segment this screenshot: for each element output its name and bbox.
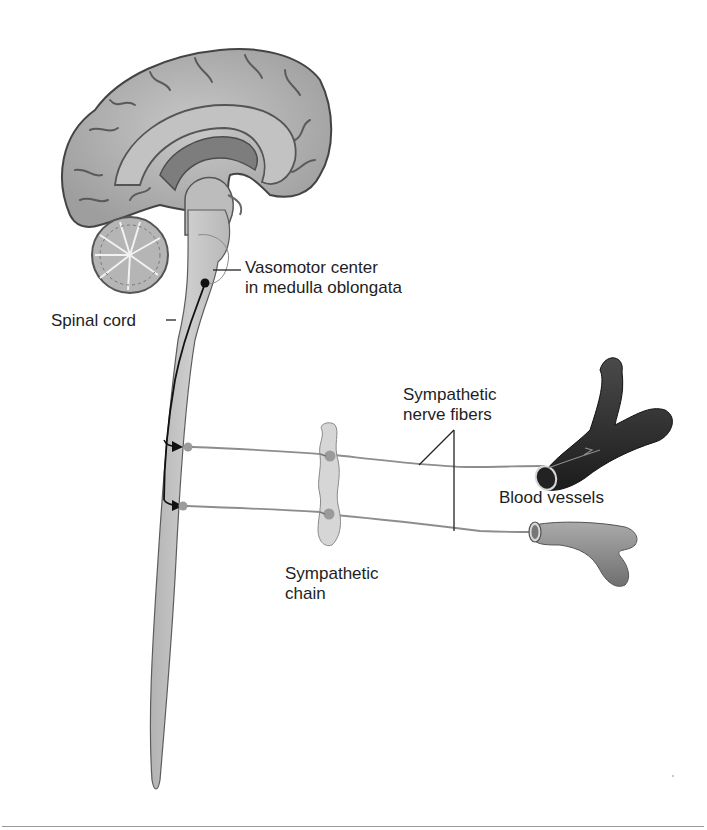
blood-vessel-lower (529, 522, 637, 586)
sympathetic-chain-label: Sympathetic chain (285, 564, 379, 604)
blood-vessels-label: Blood vessels (499, 488, 604, 508)
nerve-fibers-label-line1: Sympathetic (403, 385, 497, 405)
nerve-fibers-label-line2: nerve fibers (403, 405, 497, 425)
sympathetic-chain (318, 423, 340, 546)
vasomotor-center-label: Vasomotor center in medulla oblongata (245, 258, 402, 298)
bottom-divider (2, 826, 704, 827)
cerebellum (92, 217, 168, 293)
brain (62, 49, 331, 235)
blood-vessel-upper (532, 358, 672, 493)
chain-label-line1: Sympathetic (285, 564, 379, 584)
sympathetic-nerve-fibers-label: Sympathetic nerve fibers (403, 385, 497, 425)
spinal-cord (150, 210, 229, 789)
spinal-cord-label: Spinal cord (51, 311, 136, 331)
chain-label-line2: chain (285, 584, 379, 604)
sympathetic-nerve-fibers (179, 443, 546, 533)
vasomotor-label-line1: Vasomotor center (245, 258, 402, 278)
vasomotor-label-line2: in medulla oblongata (245, 278, 402, 298)
nervous-system-diagram (0, 0, 707, 830)
